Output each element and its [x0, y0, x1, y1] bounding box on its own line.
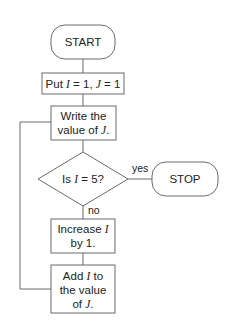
stop-terminal: STOP: [152, 162, 218, 196]
flowchart: START Put I = 1, J = 1 Write the value o…: [0, 0, 228, 327]
increase-label-line1: Increase I: [57, 223, 109, 235]
add-process-box: Add I to the value of J.: [51, 265, 115, 313]
add-label-line3: of J.: [72, 298, 93, 310]
decision-diamond: Is I = 5?: [38, 152, 128, 206]
write-label-line1: Write the: [61, 110, 107, 122]
init-label: Put I = 1, J = 1: [46, 78, 121, 90]
increase-label-line2: by 1.: [71, 237, 96, 249]
add-label-line1: Add I to: [63, 270, 103, 282]
write-label-line2: value of J.: [58, 124, 110, 136]
stop-label: STOP: [169, 173, 200, 185]
add-label-line2: the value: [60, 284, 107, 296]
decision-label: Is I = 5?: [62, 173, 104, 185]
yes-label: yes: [132, 162, 148, 174]
init-process-box: Put I = 1, J = 1: [42, 73, 124, 94]
loop-back-connector: [20, 122, 51, 289]
write-process-box: Write the value of J.: [51, 106, 116, 140]
increase-process-box: Increase I by 1.: [51, 219, 115, 253]
no-label: no: [88, 204, 100, 216]
start-terminal: START: [51, 25, 115, 59]
start-label: START: [65, 36, 102, 48]
